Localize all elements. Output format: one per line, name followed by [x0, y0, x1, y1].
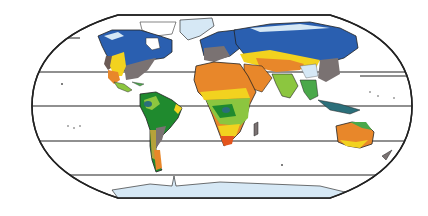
world-climate-map [0, 0, 428, 216]
region-africa-lake [222, 107, 230, 113]
region-madagascar [254, 122, 258, 136]
region-sa-lake [144, 101, 152, 107]
